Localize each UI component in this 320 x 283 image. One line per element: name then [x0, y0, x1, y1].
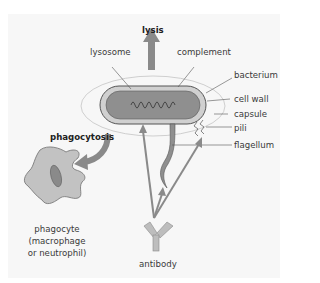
cell-wall-label: cell wall — [234, 95, 269, 104]
flagellum-icon — [160, 124, 175, 188]
phagocyte-icon — [24, 147, 85, 204]
bacterium-label: bacterium — [234, 71, 278, 80]
antibody-label: antibody — [139, 260, 177, 269]
antibody-icon — [144, 222, 173, 251]
pili-label: pili — [234, 124, 247, 133]
lysosome-label: lysosome — [90, 48, 131, 57]
complement-label: complement — [177, 48, 231, 57]
lysis-label: lysis — [142, 26, 164, 35]
phagocyte-label-2: (macrophage — [22, 237, 92, 246]
capsule-label: capsule — [234, 110, 267, 119]
phagocyte-label-1: phagocyte — [22, 225, 92, 234]
phagocyte-label-3: or neutrophil) — [22, 249, 92, 258]
phagocytosis-label: phagocytosis — [50, 133, 114, 142]
flagellum-label: flagellum — [234, 141, 274, 150]
bacterium-icon — [100, 86, 206, 124]
